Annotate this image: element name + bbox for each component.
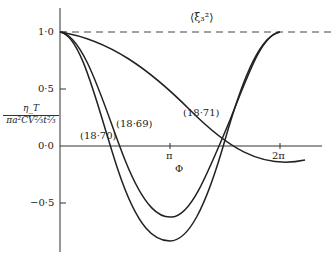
curve-label-18-71: (18·71) [183,108,219,118]
curve-label-18-70: (18·70) [80,131,116,141]
reference-label: ⟨ξ₃²⟩ [190,12,213,23]
x-tick-pi: π [166,151,173,161]
y-tick-0: 0·0 [38,141,54,151]
curve-18-69 [60,32,280,217]
curve-label-18-69: (18·69) [116,119,152,129]
y-tick-m05: −0·5 [30,198,54,208]
x-axis-label: Φ [175,164,183,174]
curve-18-71 [60,32,305,162]
y-tick-1: 1·0 [38,27,54,37]
y-tick-05: 0·5 [38,84,54,94]
chart-canvas [0,0,336,258]
y-axis-label: η_T πa²CV⅔t⅔ [3,104,59,126]
x-tick-2pi: 2π [272,151,285,161]
